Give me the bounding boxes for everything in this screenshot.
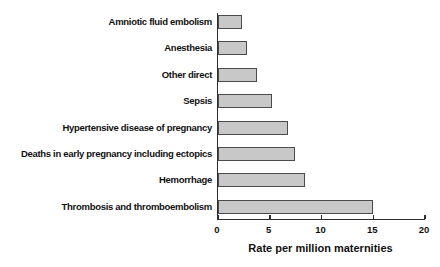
bar	[218, 68, 257, 82]
x-tick	[424, 215, 426, 219]
category-label: Sepsis	[0, 95, 212, 107]
x-tick-label: 5	[259, 224, 279, 235]
x-tick-label: 0	[207, 224, 227, 235]
bar	[218, 173, 305, 187]
bar	[218, 121, 288, 135]
bar	[218, 94, 272, 108]
bar-chart: Amniotic fluid embolismAnesthesiaOther d…	[0, 0, 440, 267]
category-label: Hypertensive disease of pregnancy	[0, 122, 212, 134]
x-tick	[217, 215, 219, 219]
x-tick	[269, 215, 271, 219]
category-label: Amniotic fluid embolism	[0, 16, 212, 28]
category-label: Deaths in early pregnancy including ecto…	[0, 148, 212, 160]
x-axis-title: Rate per million maternities	[217, 242, 424, 254]
x-tick-label: 20	[414, 224, 434, 235]
category-label: Thrombosis and thromboembolism	[0, 201, 212, 213]
bar	[218, 41, 247, 55]
bar	[218, 200, 373, 214]
bar	[218, 147, 295, 161]
x-tick-label: 10	[311, 224, 331, 235]
category-label: Other direct	[0, 69, 212, 81]
x-tick	[373, 215, 375, 219]
bar	[218, 15, 242, 29]
x-tick-label: 15	[362, 224, 382, 235]
plot-area	[217, 13, 425, 220]
category-label: Hemorrhage	[0, 174, 212, 186]
x-tick	[321, 215, 323, 219]
category-label: Anesthesia	[0, 42, 212, 54]
